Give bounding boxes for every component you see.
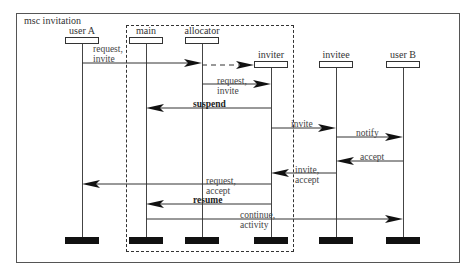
message-label-8: request,accept bbox=[206, 176, 236, 196]
message-label-7: invite,accept bbox=[295, 165, 319, 185]
message-label-5: notify bbox=[356, 128, 379, 138]
message-label-0: request,invite bbox=[93, 44, 123, 64]
message-arrows bbox=[0, 0, 472, 276]
message-label-9: resume bbox=[193, 195, 222, 205]
message-label-4: invite bbox=[291, 119, 313, 129]
message-label-10: continue,activity bbox=[240, 210, 275, 230]
message-label-2: request,invite bbox=[217, 76, 247, 96]
message-label-3: suspend bbox=[193, 99, 226, 109]
message-label-6: accept bbox=[360, 152, 384, 162]
